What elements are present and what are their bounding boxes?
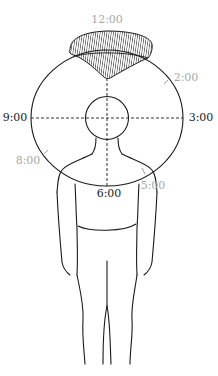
leg-right-inner: [107, 306, 111, 364]
clock-position-diagram: 12:00 2:00 3:00 9:00 8:00 5:00 6:00: [0, 0, 218, 376]
label-9-00: 9:00: [3, 112, 28, 124]
tick-2: [164, 80, 168, 84]
label-2-00: 2:00: [174, 72, 199, 84]
arm-right-inner: [137, 184, 139, 275]
arm-left-inner: [75, 184, 77, 275]
leg-left-outer: [77, 275, 85, 364]
label-8-00: 8:00: [16, 155, 41, 167]
torso-hem: [78, 224, 136, 230]
neck-right: [118, 138, 122, 154]
label-6-00: 6:00: [97, 188, 122, 200]
leg-left-inner: [103, 306, 107, 364]
tick-5: [142, 168, 145, 174]
arm-right-outer: [144, 192, 157, 275]
arm-left-outer: [57, 192, 70, 275]
label-12-00: 12:00: [91, 14, 123, 26]
label-3-00: 3:00: [189, 112, 214, 124]
neck-left: [92, 138, 96, 154]
label-5-00: 5:00: [141, 180, 166, 192]
body-outline: [57, 138, 157, 364]
tick-8: [44, 150, 48, 154]
leg-right-outer: [130, 275, 137, 364]
